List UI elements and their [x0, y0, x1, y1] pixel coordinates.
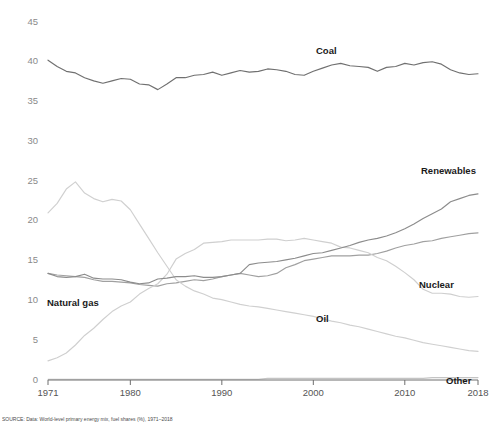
y-tick-40: 40 [27, 55, 38, 66]
series-line-oil [48, 182, 478, 351]
natural-gas-label: Natural gas [47, 297, 99, 308]
renewables-label: Renewables [421, 165, 476, 176]
series-line-natural-gas [48, 233, 478, 286]
energy-mix-line-chart: 051015202530354045 197119801990200020102… [0, 0, 502, 428]
x-axis-tick-labels: 197119801990200020102018 [37, 387, 488, 398]
x-tick-2000: 2000 [303, 387, 324, 398]
x-axis-tick-marks [48, 380, 478, 385]
series-lines [48, 60, 478, 379]
y-tick-15: 15 [27, 254, 38, 265]
x-tick-2010: 2010 [394, 387, 415, 398]
coal-label: Coal [316, 45, 337, 56]
x-tick-1971: 1971 [37, 387, 58, 398]
series-line-renewables [48, 194, 478, 284]
x-tick-1980: 1980 [120, 387, 141, 398]
x-tick-2018: 2018 [467, 387, 488, 398]
x-tick-1990: 1990 [211, 387, 232, 398]
y-tick-35: 35 [27, 95, 38, 106]
y-axis-tick-labels: 051015202530354045 [27, 16, 38, 385]
y-tick-45: 45 [27, 16, 38, 27]
chart-container: 051015202530354045 197119801990200020102… [0, 0, 502, 428]
y-tick-25: 25 [27, 175, 38, 186]
y-tick-20: 20 [27, 214, 38, 225]
series-line-nuclear [48, 238, 478, 361]
chart-caption: SOURCE: Data: World-level primary energy… [2, 416, 502, 422]
y-tick-0: 0 [33, 374, 38, 385]
series-line-other [48, 378, 478, 380]
y-tick-5: 5 [33, 334, 38, 345]
nuclear-label: Nuclear [419, 279, 454, 290]
y-tick-30: 30 [27, 135, 38, 146]
other-label: Other [446, 375, 472, 386]
series-inline-labels: CoalRenewablesNuclearNatural gasOilOther [47, 45, 476, 386]
y-tick-10: 10 [27, 294, 38, 305]
oil-label: Oil [316, 313, 329, 324]
series-line-coal [48, 60, 478, 89]
